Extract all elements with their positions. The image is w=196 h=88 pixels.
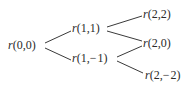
edge-r1m1-r2m2 — [117, 61, 143, 73]
binomial-tree-diagram: r(0,0) r(1,1) r(1,− 1) r(2,2) r(2,0) r(2… — [0, 0, 196, 88]
node-r11: r(1,1) — [72, 22, 100, 34]
node-r22: r(2,2) — [143, 8, 171, 20]
node-args: (0,0) — [13, 38, 36, 52]
edge-r1m1-r20 — [117, 46, 142, 57]
node-args: (2,2) — [148, 7, 171, 21]
node-args: (1,− 1) — [77, 51, 108, 65]
node-r1m1: r(1,− 1) — [72, 52, 107, 64]
node-args: (2,0) — [148, 36, 171, 50]
edge-r11-r20 — [107, 31, 142, 41]
edge-r00-r1m1 — [45, 48, 71, 60]
edge-r00-r11 — [45, 31, 71, 43]
node-args: (2,− 2) — [150, 68, 181, 82]
node-r2m2: r(2,− 2) — [145, 69, 180, 81]
node-r20: r(2,0) — [143, 37, 171, 49]
node-args: (1,1) — [77, 21, 100, 35]
edge-r11-r22 — [107, 16, 142, 27]
node-r00: r(0,0) — [8, 39, 36, 51]
